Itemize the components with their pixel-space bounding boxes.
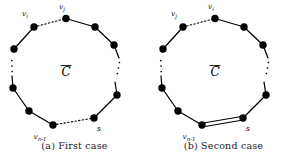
- label-bottom-right-base: s: [97, 124, 101, 133]
- label-top-right-sub: i: [212, 6, 214, 12]
- edge-dashed-vi-vj: [34, 19, 66, 28]
- vertex-upper-left: [30, 23, 37, 30]
- caption-second-case: (b) Second case: [149, 140, 298, 151]
- vertex-left-upper: [10, 45, 17, 52]
- center-label-group: C: [210, 65, 221, 79]
- edge-upper-right-to-right-upper: [244, 27, 263, 45]
- vertex-left-upper: [159, 45, 166, 52]
- edge-right-lower-to-lower-right: [94, 95, 117, 118]
- edge-double-lower-strand: [202, 120, 243, 127]
- figure-sheet: C vi vj vn-1 s (a) First case: [0, 0, 298, 165]
- edge-bottom-to-lower-left: [178, 111, 202, 125]
- ellipsis-left: [11, 60, 13, 73]
- edge-left-upper-to-upper-left: [163, 27, 183, 49]
- diagram-first-case: C vi vj vn-1 s: [0, 0, 149, 142]
- edge-right-lower-to-lower-right: [243, 95, 266, 118]
- vertex-right-lower: [262, 91, 269, 98]
- vertex-upper-right: [91, 23, 98, 30]
- vertex-right-upper: [259, 41, 266, 48]
- caption-first-case: (a) First case: [0, 140, 149, 151]
- edge-top-to-upper-right: [66, 19, 95, 28]
- label-top-left: vj: [171, 9, 177, 20]
- label-top-left: vi: [22, 9, 28, 19]
- label-bottom-right: s: [97, 124, 101, 133]
- vertex-lower-left: [174, 107, 181, 114]
- ellipsis-right: [117, 62, 121, 75]
- label-top-right: vi: [208, 2, 214, 12]
- edge-dashed-vn1-s: [53, 118, 94, 125]
- vertex-upper-left: [179, 23, 186, 30]
- label-top-left-sub: j: [174, 13, 177, 20]
- vertex-lower-right: [90, 114, 97, 121]
- label-bottom-right-base: s: [246, 124, 250, 133]
- diagram-second-case: C vj vi vn-1 s: [149, 0, 298, 142]
- figure-panel-first-case: C vi vj vn-1 s (a) First case: [0, 0, 149, 165]
- vertex-upper-right: [240, 23, 247, 30]
- vertex-right-lower: [113, 91, 120, 98]
- vertex-top: [62, 15, 69, 22]
- edge-bottom-to-lower-left: [29, 111, 53, 125]
- figure-panel-second-case: C vj vi vn-1 s (b) Second case: [149, 0, 298, 165]
- special-edges-dashed: [183, 19, 215, 28]
- label-top-right-sub: j: [62, 6, 65, 13]
- edge-upper-right-to-right-upper: [95, 27, 114, 45]
- vertex-bottom: [49, 121, 56, 128]
- edge-lower-left-to-left-lower: [13, 88, 29, 111]
- vertex-left-lower: [9, 84, 16, 91]
- label-top-right: vj: [59, 2, 65, 13]
- center-label-c: C: [210, 65, 219, 79]
- edge-dashed-vj-vi: [183, 19, 215, 28]
- vertex-lower-right: [239, 114, 246, 121]
- edge-double-upper-strand: [202, 116, 243, 123]
- diagram-svg-first-case: C vi vj vn-1 s: [0, 0, 149, 142]
- ellipsis-right: [266, 62, 270, 75]
- center-label-group: C: [61, 65, 72, 79]
- edge-top-to-upper-right: [215, 19, 244, 28]
- vertex-right-upper: [110, 41, 117, 48]
- ellipsis-left: [160, 60, 162, 73]
- special-edge-double-vn1-s: [202, 116, 243, 127]
- vertex-top: [211, 15, 218, 22]
- edge-left-upper-to-upper-left: [14, 27, 34, 49]
- label-top-left-sub: i: [26, 13, 28, 19]
- vertex-bottom: [198, 121, 205, 128]
- edge-lower-left-to-left-lower: [162, 88, 178, 111]
- vertex-lower-left: [25, 107, 32, 114]
- vertex-left-lower: [158, 84, 165, 91]
- diagram-svg-second-case: C vj vi vn-1 s: [149, 0, 298, 142]
- center-label-c: C: [61, 65, 70, 79]
- label-bottom-right: s: [246, 124, 250, 133]
